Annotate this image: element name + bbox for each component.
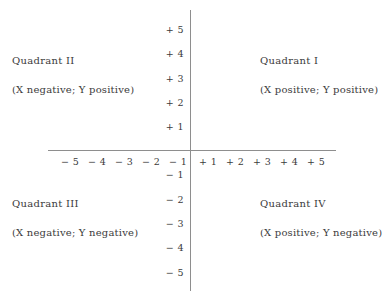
quadrant-1-signs: (X positive; Y positive) [260, 85, 378, 95]
x-tick-label-minus-5: − 5 [61, 156, 79, 167]
y-tick-label-minus-1: − 1 [166, 169, 184, 180]
x-tick-label-1: + 1 [199, 156, 217, 167]
quadrant-4-label: Quadrant IV (X positive; Y negative) [260, 199, 382, 238]
x-tick-label-minus-3: − 3 [115, 156, 133, 167]
y-tick-label-minus-5: − 5 [166, 267, 184, 278]
quadrant-3-title: Quadrant III [12, 199, 138, 209]
y-tick-label-3: + 3 [166, 73, 184, 84]
quadrant-1-label: Quadrant I (X positive; Y positive) [260, 56, 378, 95]
y-tick-label-minus-3: − 3 [166, 218, 184, 229]
x-tick-label-3: + 3 [253, 156, 271, 167]
x-tick-label-5: + 5 [307, 156, 325, 167]
y-tick-label-minus-2: − 2 [166, 194, 184, 205]
quadrant-2-signs: (X negative; Y positive) [12, 85, 134, 95]
x-tick-label-minus-2: − 2 [142, 156, 160, 167]
y-tick-label-4: + 4 [166, 48, 184, 59]
y-tick-label-minus-4: − 4 [166, 242, 184, 253]
quadrant-3-label: Quadrant III (X negative; Y negative) [12, 199, 138, 238]
quadrant-4-title: Quadrant IV [260, 199, 382, 209]
x-axis-line [48, 150, 336, 151]
x-tick-label-minus-4: − 4 [88, 156, 106, 167]
x-tick-label-minus-1: − 1 [169, 156, 187, 167]
x-tick-label-2: + 2 [226, 156, 244, 167]
quadrant-4-signs: (X positive; Y negative) [260, 228, 382, 238]
quadrant-1-title: Quadrant I [260, 56, 378, 66]
y-tick-label-5: + 5 [166, 24, 184, 35]
quadrant-2-label: Quadrant II (X negative; Y positive) [12, 56, 134, 95]
quadrant-2-title: Quadrant II [12, 56, 134, 66]
quadrant-3-signs: (X negative; Y negative) [12, 228, 138, 238]
y-tick-label-1: + 1 [166, 121, 184, 132]
y-tick-label-2: + 2 [166, 97, 184, 108]
coordinate-plane-diagram: + 5 + 4 + 3 + 2 + 1 − 1 − 2 − 3 − 4 − 5 … [0, 0, 383, 298]
x-tick-label-4: + 4 [280, 156, 298, 167]
